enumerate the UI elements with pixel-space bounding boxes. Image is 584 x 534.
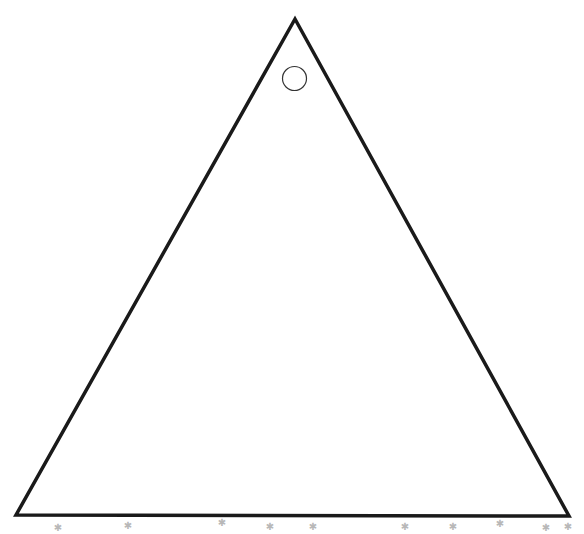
asterisk-mark-icon: ✱ [564,521,572,532]
asterisk-mark-icon: ✱ [54,522,62,533]
asterisk-mark-icon: ✱ [218,517,226,528]
asterisk-mark-icon: ✱ [309,521,317,532]
circle-shape [283,67,307,91]
asterisk-mark-icon: ✱ [401,521,409,532]
asterisk-mark-icon: ✱ [542,522,550,533]
asterisk-mark-icon: ✱ [124,520,132,531]
asterisk-mark-icon: ✱ [266,521,274,532]
asterisk-mark-icon: ✱ [496,518,504,529]
decorative-marks: ✱✱✱✱✱✱✱✱✱✱ [54,517,572,533]
triangle-shape [16,19,569,516]
asterisk-mark-icon: ✱ [449,521,457,532]
diagram-canvas: ✱✱✱✱✱✱✱✱✱✱ [0,0,584,534]
